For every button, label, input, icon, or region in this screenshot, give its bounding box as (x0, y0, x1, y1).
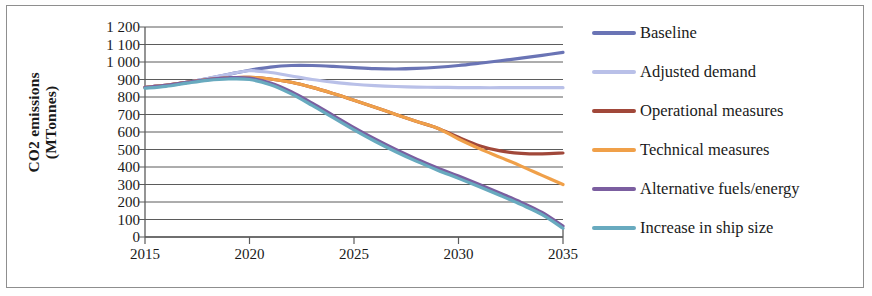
y-axis-title: CO2 emissions (MTonnes) (25, 12, 60, 232)
legend-label: Technical measures (640, 142, 769, 159)
y-tick-label: 800 (84, 90, 140, 105)
legend-item[interactable]: Increase in ship size (592, 217, 773, 239)
legend-label: Alternative fuels/energy (640, 181, 800, 198)
y-tick-label: 200 (84, 195, 140, 210)
y-tick-label: 0 (84, 230, 140, 245)
x-tick-label: 2030 (424, 247, 494, 262)
y-tick-label: 300 (84, 178, 140, 193)
plot-area (145, 27, 563, 237)
x-tick-label: 2015 (110, 247, 180, 262)
chart-legend: BaselineAdjusted demandOperational measu… (592, 22, 864, 260)
y-tick-label: 500 (84, 143, 140, 158)
y-tick-label: 100 (84, 213, 140, 228)
legend-color-swatch (592, 226, 636, 230)
legend-item[interactable]: Technical measures (592, 139, 769, 161)
x-tick-label: 2025 (319, 247, 389, 262)
legend-color-swatch (592, 31, 636, 35)
legend-label: Operational measures (640, 103, 783, 120)
y-tick-label: 600 (84, 125, 140, 140)
legend-item[interactable]: Alternative fuels/energy (592, 178, 800, 200)
y-axis-tick-labels: 1 2001 1001 0009008007006005004003002001… (84, 13, 140, 243)
legend-label: Increase in ship size (640, 220, 773, 237)
legend-item[interactable]: Operational measures (592, 100, 783, 122)
y-tick-label: 900 (84, 73, 140, 88)
series-line (145, 52, 563, 87)
legend-label: Baseline (640, 25, 697, 42)
legend-color-swatch (592, 70, 636, 74)
legend-item[interactable]: Baseline (592, 22, 697, 44)
y-tick-label: 1 100 (84, 38, 140, 53)
x-axis-tick-labels: 20152020202520302035 (145, 247, 575, 271)
legend-label: Adjusted demand (640, 64, 756, 81)
legend-color-swatch (592, 148, 636, 152)
x-tick-label: 2020 (215, 247, 285, 262)
x-tick-label: 2035 (528, 247, 598, 262)
legend-color-swatch (592, 187, 636, 191)
legend-item[interactable]: Adjusted demand (592, 61, 756, 83)
y-tick-label: 400 (84, 160, 140, 175)
y-tick-label: 1 200 (84, 20, 140, 35)
chart-figure: CO2 emissions (MTonnes) 1 2001 1001 0009… (0, 0, 872, 296)
legend-color-swatch (592, 109, 636, 113)
series-lines (145, 27, 563, 237)
y-tick-label: 1 000 (84, 55, 140, 70)
y-tick-label: 700 (84, 108, 140, 123)
